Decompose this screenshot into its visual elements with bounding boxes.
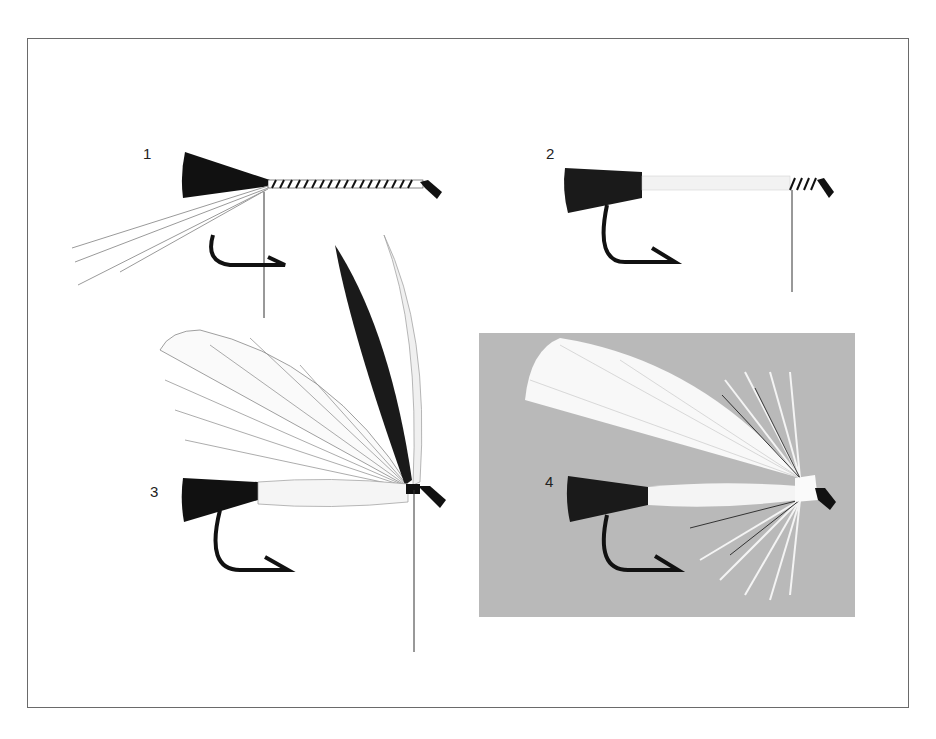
fly-stage-4-illustration	[0, 0, 936, 739]
